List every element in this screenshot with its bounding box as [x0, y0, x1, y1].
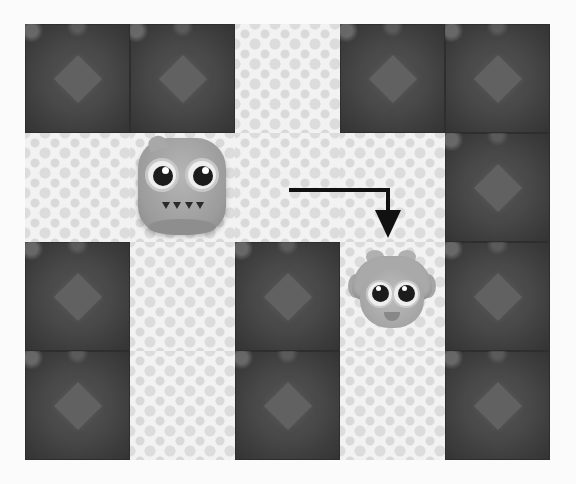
monster-character[interactable] — [138, 138, 226, 233]
monster-teeth — [162, 202, 204, 210]
game-board — [25, 24, 550, 460]
floor-tile[interactable] — [130, 133, 235, 242]
monster-right-eye — [185, 158, 219, 192]
wall-tile — [445, 24, 550, 133]
girl-left-eye — [366, 280, 394, 308]
floor-tile[interactable] — [130, 351, 235, 460]
floor-tile[interactable] — [235, 24, 340, 133]
floor-tile[interactable] — [340, 242, 445, 351]
wall-tile — [130, 24, 235, 133]
wall-tile — [340, 24, 445, 133]
wall-tile — [235, 242, 340, 351]
wall-tile — [25, 24, 130, 133]
monster-left-eye — [145, 158, 179, 192]
wall-tile — [445, 351, 550, 460]
wall-tile — [25, 351, 130, 460]
floor-tile[interactable] — [340, 351, 445, 460]
wall-tile — [445, 242, 550, 351]
wall-tile — [235, 351, 340, 460]
wall-tile — [445, 133, 550, 242]
monster-feet — [148, 219, 216, 235]
floor-tile[interactable] — [340, 133, 445, 242]
girl-character[interactable] — [346, 246, 438, 338]
monster-ear — [146, 133, 168, 152]
girl-right-eye — [392, 280, 420, 308]
wall-tile — [25, 242, 130, 351]
floor-tile[interactable] — [130, 242, 235, 351]
floor-tile[interactable] — [235, 133, 340, 242]
floor-tile[interactable] — [25, 133, 130, 242]
